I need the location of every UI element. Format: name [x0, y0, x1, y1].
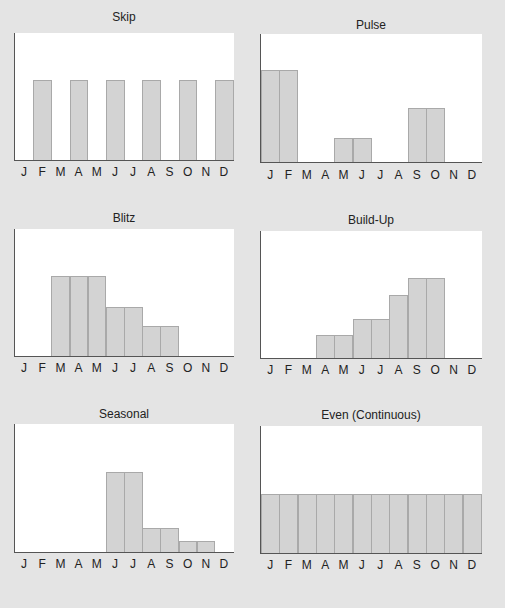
- bar-4: [334, 494, 353, 553]
- bar-8: [408, 494, 427, 553]
- x-tick-label: O: [426, 558, 444, 572]
- bar-3: [316, 494, 335, 553]
- bar-0: [261, 494, 280, 553]
- bar-11: [463, 494, 482, 553]
- bar-10: [444, 494, 463, 553]
- plot-area: [260, 426, 482, 554]
- x-tick-label: D: [463, 558, 481, 572]
- bar-2: [298, 494, 317, 553]
- x-tick-label: J: [261, 558, 279, 572]
- bar-5: [353, 494, 372, 553]
- bar-7: [389, 494, 408, 553]
- x-tick-label: F: [280, 558, 298, 572]
- chart-panel-even: Even (Continuous) JFMAMJJASOND: [0, 0, 505, 608]
- x-tick-label: S: [408, 558, 426, 572]
- bar-9: [426, 494, 445, 553]
- bar-1: [279, 494, 298, 553]
- x-tick-label: J: [353, 558, 371, 572]
- chart-title: Even (Continuous): [260, 408, 482, 422]
- x-tick-label: N: [445, 558, 463, 572]
- x-tick-label: M: [298, 558, 316, 572]
- x-tick-label: A: [390, 558, 408, 572]
- bar-6: [371, 494, 390, 553]
- x-axis-labels: JFMAMJJASOND: [260, 558, 482, 572]
- x-tick-label: A: [316, 558, 334, 572]
- x-tick-label: J: [371, 558, 389, 572]
- x-tick-label: M: [335, 558, 353, 572]
